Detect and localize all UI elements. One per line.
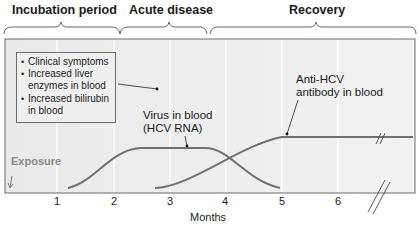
antibody-label: Anti-HCV antibody in blood	[296, 73, 383, 99]
exposure-label: Exposure	[11, 155, 61, 167]
antibody-label-line1: Anti-HCV	[296, 73, 383, 86]
tick-4: 4	[222, 195, 228, 207]
bullet-icon: •	[21, 93, 28, 117]
phase-braces	[4, 22, 416, 34]
bullet-icon: •	[21, 56, 28, 68]
legend-item-clinical-symptoms: • Clinical symptoms	[21, 56, 112, 68]
tick-6: 6	[335, 195, 341, 207]
legend-item-bilirubin: • Increased bilirubin in blood	[21, 93, 112, 117]
legend-item-text: Increased bilirubin in blood	[28, 93, 112, 117]
legend-item-text: Increased liver enzymes in blood	[28, 68, 112, 92]
x-axis-title: Months	[190, 211, 226, 223]
virus-label-line2: (HCV RNA)	[143, 122, 212, 135]
antibody-label-line2: antibody in blood	[296, 86, 383, 99]
tick-2: 2	[111, 195, 117, 207]
bullet-icon: •	[21, 68, 28, 92]
tick-1: 1	[54, 195, 60, 207]
tick-5: 5	[279, 195, 285, 207]
brace-incubation	[4, 22, 120, 34]
legend-item-liver-enzymes: • Increased liver enzymes in blood	[21, 68, 112, 92]
virus-label-line1: Virus in blood	[143, 109, 212, 122]
brace-recovery	[210, 22, 416, 34]
legend-item-text: Clinical symptoms	[28, 56, 109, 68]
tick-3: 3	[167, 195, 173, 207]
brace-acute	[120, 22, 207, 34]
virus-label: Virus in blood (HCV RNA)	[143, 109, 212, 135]
clinical-signs-box: • Clinical symptoms • Increased liver en…	[16, 52, 116, 123]
